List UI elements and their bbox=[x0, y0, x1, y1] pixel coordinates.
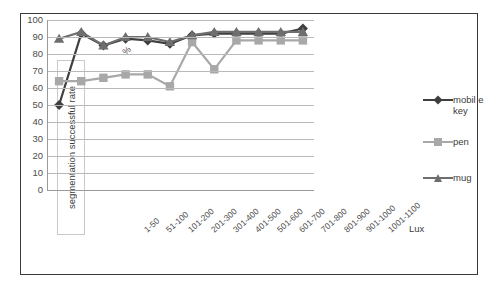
series-pen bbox=[55, 36, 307, 90]
data-point-marker bbox=[166, 82, 174, 90]
y-axis-tick-label: 10 bbox=[32, 168, 43, 178]
data-point-marker bbox=[99, 74, 107, 82]
data-point-marker bbox=[76, 27, 86, 36]
y-axis-tick-label: 60 bbox=[32, 83, 43, 93]
y-axis-tick-label: 50 bbox=[32, 100, 43, 110]
x-axis-label: Lux bbox=[409, 223, 424, 234]
y-axis-tick-label: 30 bbox=[32, 134, 43, 144]
legend-item-mobile-key[interactable]: mobil e key bbox=[423, 94, 487, 116]
data-point-marker bbox=[55, 77, 63, 85]
gridline bbox=[48, 105, 314, 106]
legend-item-pen[interactable]: pen bbox=[423, 136, 487, 147]
x-axis-tick-label: 1-50 bbox=[142, 216, 161, 235]
gridline bbox=[48, 156, 314, 157]
legend-marker-icon bbox=[423, 95, 453, 105]
legend-marker-icon bbox=[423, 173, 453, 183]
y-axis-tick-label: 80 bbox=[32, 49, 43, 59]
y-axis-tick-label: 0 bbox=[38, 185, 43, 195]
legend-label: pen bbox=[453, 136, 487, 147]
legend-label: mug bbox=[453, 172, 487, 183]
legend-marker-icon bbox=[423, 137, 453, 147]
y-axis-tick-label: 70 bbox=[32, 66, 43, 76]
x-axis-ticks: 1-5051-100101-200201-300301-400401-50050… bbox=[135, 227, 425, 277]
x-axis-tick-label: 51-100 bbox=[164, 209, 190, 234]
gridline bbox=[48, 88, 314, 89]
y-axis-tick-label: 20 bbox=[32, 151, 43, 161]
y-axis-tick-label: 100 bbox=[27, 15, 43, 25]
gridline bbox=[48, 54, 314, 55]
legend-label: mobil e key bbox=[453, 94, 487, 116]
y-axis-ticks: 1009080706050403020100 bbox=[21, 20, 43, 190]
gridline bbox=[48, 71, 314, 72]
gridline bbox=[48, 139, 314, 140]
figure-frame: segmentation successful rate % 100908070… bbox=[20, 13, 478, 275]
gridline bbox=[48, 122, 314, 123]
series-mug bbox=[54, 27, 308, 50]
legend-item-mug[interactable]: mug bbox=[423, 172, 487, 183]
y-axis-tick-label: 40 bbox=[32, 117, 43, 127]
plot-area bbox=[47, 20, 314, 191]
gridline bbox=[48, 20, 314, 21]
data-point-marker bbox=[210, 65, 218, 73]
gridline bbox=[48, 37, 314, 38]
series-line bbox=[59, 40, 303, 86]
gridline bbox=[48, 173, 314, 174]
y-axis-tick-label: 90 bbox=[32, 32, 43, 42]
data-point-marker bbox=[77, 77, 85, 85]
